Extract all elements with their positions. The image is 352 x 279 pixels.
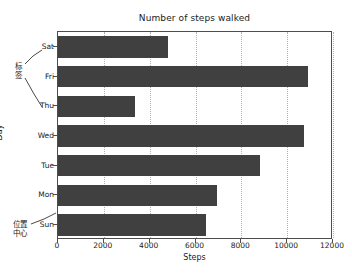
bar — [58, 214, 206, 235]
y-tick-mark — [53, 46, 57, 47]
gridline — [333, 32, 334, 238]
x-tick-mark — [332, 239, 333, 243]
annotation-center-callout: 位置 中心 — [11, 221, 29, 238]
x-tick-mark — [57, 239, 58, 243]
y-tick-label-wed: Wed — [38, 131, 54, 140]
bar — [58, 155, 260, 176]
chart-figure: Number of steps walked SunMonTueWedThuFr… — [0, 0, 352, 279]
y-tick-mark — [53, 194, 57, 195]
bar — [58, 66, 308, 87]
y-axis-title: Day — [0, 125, 4, 141]
y-tick-mark — [53, 105, 57, 106]
chart-title: Number of steps walked — [57, 13, 332, 23]
x-tick-mark — [149, 239, 150, 243]
bar — [58, 36, 168, 57]
plot-area — [57, 31, 332, 239]
y-tick-mark — [53, 224, 57, 225]
annotation-label-callout: 标签 — [13, 63, 24, 80]
annotation-center-line2: 中心 — [11, 230, 29, 239]
x-tick-mark — [240, 239, 241, 243]
x-tick-mark — [286, 239, 287, 243]
y-tick-label-sun: Sun — [40, 220, 54, 229]
y-tick-mark — [53, 135, 57, 136]
bar — [58, 125, 304, 146]
y-tick-label-thu: Thu — [40, 101, 54, 110]
x-tick-mark — [103, 239, 104, 243]
x-axis-title: Steps — [57, 253, 332, 262]
y-tick-mark — [53, 76, 57, 77]
y-tick-mark — [53, 165, 57, 166]
x-tick-mark — [195, 239, 196, 243]
bar — [58, 96, 135, 117]
y-tick-label-mon: Mon — [38, 190, 54, 199]
bar — [58, 185, 217, 206]
bar-series — [58, 32, 331, 238]
y-axis-tick-labels: SunMonTueWedThuFriSat — [0, 31, 54, 239]
